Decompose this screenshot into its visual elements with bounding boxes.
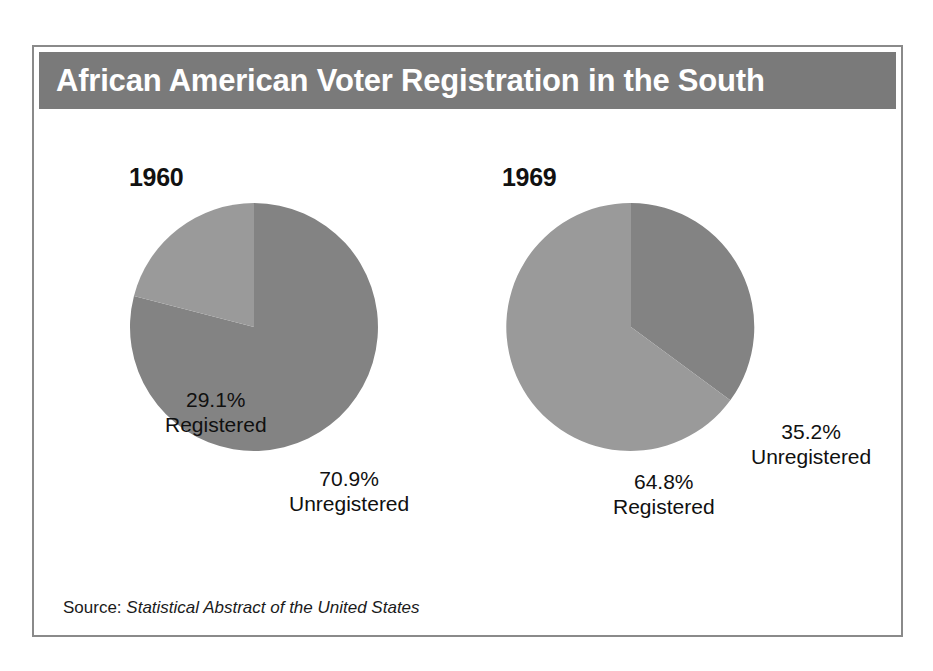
pie-label-1969-unregistered-pct: 35.2%: [751, 420, 871, 445]
page-title: African American Voter Registration in t…: [39, 63, 765, 99]
pie-label-1960-registered-pct: 29.1%: [165, 388, 267, 413]
pie-label-1960-unregistered: 70.9% Unregistered: [289, 467, 409, 516]
pie-year-label-1960: 1960: [129, 163, 183, 192]
pie-panel-1960: 1960 29.1% Registered 70.9% Unregistered: [92, 109, 512, 579]
pie-label-1960-registered: 29.1% Registered: [165, 388, 267, 437]
title-banner: African American Voter Registration in t…: [39, 52, 896, 109]
pie-label-1969-unregistered-name: Unregistered: [751, 445, 871, 470]
pie-label-1960-unregistered-pct: 70.9%: [289, 467, 409, 492]
pie-label-1969-unregistered: 35.2% Unregistered: [751, 420, 871, 469]
pie-chart-1960: 29.1% Registered 70.9% Unregistered: [129, 202, 379, 452]
pie-label-1960-registered-name: Registered: [165, 413, 267, 438]
source-note-prefix: Source:: [63, 598, 122, 617]
pie-label-1969-registered: 64.8% Registered: [613, 470, 715, 519]
pie-label-1960-unregistered-name: Unregistered: [289, 492, 409, 517]
pie-chart-1969: 35.2% Unregistered 64.8% Registered: [506, 202, 756, 452]
source-note-title: Statistical Abstract of the United State…: [126, 598, 419, 617]
chart-figure: African American Voter Registration in t…: [32, 45, 903, 637]
pie-label-1969-registered-pct: 64.8%: [613, 470, 715, 495]
pie-year-label-1969: 1969: [502, 163, 556, 192]
pie-svg-1969: [506, 202, 756, 452]
pie-label-1969-registered-name: Registered: [613, 495, 715, 520]
pie-panel-1969: 1969 35.2% Unregistered 64.8% Registered: [464, 109, 884, 579]
source-note: Source: Statistical Abstract of the Unit…: [63, 598, 420, 618]
